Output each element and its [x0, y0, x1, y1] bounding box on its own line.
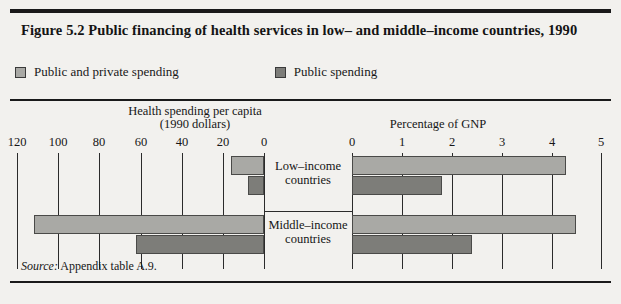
- left-tick-label-40: 40: [176, 135, 189, 150]
- right-axis-title-line-1: Percentage of GNP: [358, 118, 518, 131]
- category-label-middle-income-line-2: countries: [268, 232, 347, 246]
- legend-swatch-light-icon: [15, 67, 26, 78]
- plot-area: Health spending per capita (1990 dollars…: [0, 105, 621, 275]
- left-gridline-100: [58, 153, 59, 269]
- chart-legend: Public and private spending Public spend…: [15, 64, 377, 80]
- right-tick-label-5: 5: [598, 135, 604, 150]
- right-tick-label-3: 3: [499, 135, 505, 150]
- figure-panel: Figure 5.2 Public financing of health se…: [0, 0, 621, 304]
- top-rule: [10, 9, 611, 13]
- category-label-low-income-line-1: Low–income: [275, 159, 341, 173]
- category-label-middle-income: Middle–income countries: [268, 218, 347, 246]
- source-note: Source: Appendix table A.9.: [21, 259, 157, 274]
- right-gridline-5: [601, 153, 602, 269]
- category-label-middle-income-line-1: Middle–income: [268, 218, 347, 232]
- legend-label-public: Public spending: [294, 64, 377, 80]
- left-tick-label-100: 100: [49, 135, 68, 150]
- bar-left-middle-income-public[interactable]: [136, 235, 264, 254]
- legend-item-public-and-private: Public and private spending: [15, 64, 179, 80]
- bar-left-low-income-public[interactable]: [248, 176, 264, 195]
- legend-item-public: Public spending: [275, 64, 377, 80]
- left-tick-label-80: 80: [93, 135, 106, 150]
- figure-title: Figure 5.2 Public financing of health se…: [21, 22, 577, 39]
- right-tick-label-1: 1: [399, 135, 405, 150]
- left-tick-label-0: 0: [261, 135, 267, 150]
- legend-label-public-and-private: Public and private spending: [34, 64, 179, 80]
- bar-right-low-income-public[interactable]: [352, 176, 442, 195]
- left-tick-label-60: 60: [135, 135, 148, 150]
- left-gridline-80: [99, 153, 100, 269]
- right-tick-label-4: 4: [549, 135, 555, 150]
- bar-right-middle-income-public[interactable]: [352, 235, 472, 254]
- left-tick-label-20: 20: [217, 135, 230, 150]
- header-divider-rule: [10, 99, 611, 101]
- right-tick-label-0: 0: [349, 135, 355, 150]
- left-tick-label-120: 120: [8, 135, 27, 150]
- bar-left-low-income-public-and-private[interactable]: [231, 156, 264, 175]
- category-label-low-income-line-2: countries: [275, 173, 341, 187]
- right-tick-label-2: 2: [449, 135, 455, 150]
- right-axis-title: Percentage of GNP: [358, 118, 518, 131]
- left-axis-title: Health spending per capita (1990 dollars…: [115, 105, 275, 131]
- bar-right-middle-income-public-and-private[interactable]: [352, 215, 576, 234]
- category-divider-line: [264, 211, 352, 212]
- left-axis-title-line-2: (1990 dollars): [115, 118, 275, 131]
- left-gridline-120: [17, 153, 18, 269]
- category-label-low-income: Low–income countries: [275, 159, 341, 187]
- source-text: Appendix table A.9.: [60, 259, 157, 273]
- bottom-rule: [10, 281, 611, 283]
- bar-left-middle-income-public-and-private[interactable]: [34, 215, 264, 234]
- bar-right-low-income-public-and-private[interactable]: [352, 156, 566, 175]
- source-label: Source:: [21, 259, 58, 273]
- legend-swatch-dark-icon: [275, 67, 286, 78]
